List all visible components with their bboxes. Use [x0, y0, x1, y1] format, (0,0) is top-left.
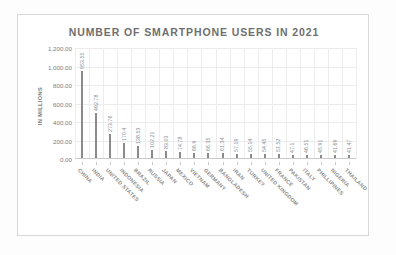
- y-axis-tick-label: 0.00: [60, 156, 72, 163]
- bar-value-label: 57.19: [233, 138, 239, 151]
- bar-value-label: 953.55: [79, 52, 85, 68]
- bar[interactable]: [81, 71, 83, 159]
- y-axis-tick-label: 800.00: [53, 82, 72, 89]
- x-axis-tick-mark: [124, 162, 125, 165]
- x-axis-tick-mark: [194, 162, 195, 165]
- y-axis-tick-labels: 1,200.001,000.00800.00600.00400.00200.00…: [27, 48, 72, 159]
- x-axis-tick-mark: [208, 162, 209, 165]
- bar-value-label: 66.9: [191, 140, 197, 151]
- x-axis-tick-mark: [166, 162, 167, 165]
- bar[interactable]: [95, 113, 97, 159]
- bar-value-label: 83.03: [163, 136, 169, 149]
- bar[interactable]: [123, 143, 125, 159]
- x-axis-tick-mark: [349, 162, 350, 165]
- bar-value-label: 492.78: [93, 95, 99, 111]
- x-axis-tick-mark: [223, 162, 224, 165]
- bar-value-label: 138.53: [135, 128, 141, 144]
- x-axis-tick-mark: [251, 162, 252, 165]
- bar-value-label: 41.69: [332, 140, 338, 153]
- x-axis-tick-mark: [307, 162, 308, 165]
- bar-slot: [89, 113, 103, 159]
- bar-value-label: 54.45: [261, 138, 267, 151]
- x-axis-tick-mark: [152, 162, 153, 165]
- bar-value-label: 47.1: [289, 142, 295, 153]
- x-axis-tick-mark: [82, 162, 83, 165]
- bar-value-label: 170.4: [121, 128, 127, 141]
- x-axis-tick-mark: [96, 162, 97, 165]
- x-axis-tick-mark: [279, 162, 280, 165]
- x-axis-tick-mark: [335, 162, 336, 165]
- x-axis-tick-mark: [110, 162, 111, 165]
- bar-value-label: 66.35: [205, 137, 211, 150]
- bar-value-label: 273.76: [107, 115, 113, 131]
- plot-area: 953.55492.78273.76170.4138.53102.2183.03…: [75, 48, 356, 159]
- bar[interactable]: [109, 134, 111, 159]
- chart-title: NUMBER OF SMARTPHONE USERS IN 2021: [18, 26, 370, 38]
- x-axis-category-labels: CHINAINDIAUNITED STATESINDONESIABRAZILRU…: [75, 162, 356, 232]
- bar-value-label: 51.52: [275, 139, 281, 152]
- bar-value-label: 41.47: [346, 140, 352, 153]
- y-axis-tick-label: 200.00: [53, 137, 72, 144]
- x-axis-tick-mark: [237, 162, 238, 165]
- x-axis-tick-mark: [180, 162, 181, 165]
- chart-screenshot: NUMBER OF SMARTPHONE USERS IN 2021 IN MI…: [0, 0, 396, 255]
- bar-value-label: 55.14: [247, 138, 253, 151]
- y-axis-tick-label: 1,000.00: [48, 63, 72, 70]
- bar-series: 953.55492.78273.76170.4138.53102.2183.03…: [75, 48, 356, 159]
- bar-slot: [117, 143, 131, 159]
- bar-value-label: 61.34: [219, 138, 225, 151]
- bar-slot: [75, 71, 89, 159]
- bar-slot: [103, 134, 117, 159]
- category-gridline: [356, 48, 357, 159]
- x-axis-tick-mark: [138, 162, 139, 165]
- x-axis-tick-mark: [321, 162, 322, 165]
- y-axis-tick-label: 400.00: [53, 119, 72, 126]
- x-axis-tick-mark: [265, 162, 266, 165]
- x-axis-label: THAILAND: [344, 167, 369, 192]
- x-axis-tick-mark: [293, 162, 294, 165]
- bar-value-label: 45.91: [317, 139, 323, 152]
- y-axis-tick-label: 600.00: [53, 100, 72, 107]
- bar-value-label: 46.51: [303, 139, 309, 152]
- bar-value-label: 74.78: [177, 137, 183, 150]
- chart-frame: NUMBER OF SMARTPHONE USERS IN 2021 IN MI…: [17, 14, 369, 236]
- y-axis-tick-label: 1,200.00: [48, 45, 72, 52]
- x-axis-line: [75, 158, 356, 159]
- bar-value-label: 102.21: [149, 131, 155, 147]
